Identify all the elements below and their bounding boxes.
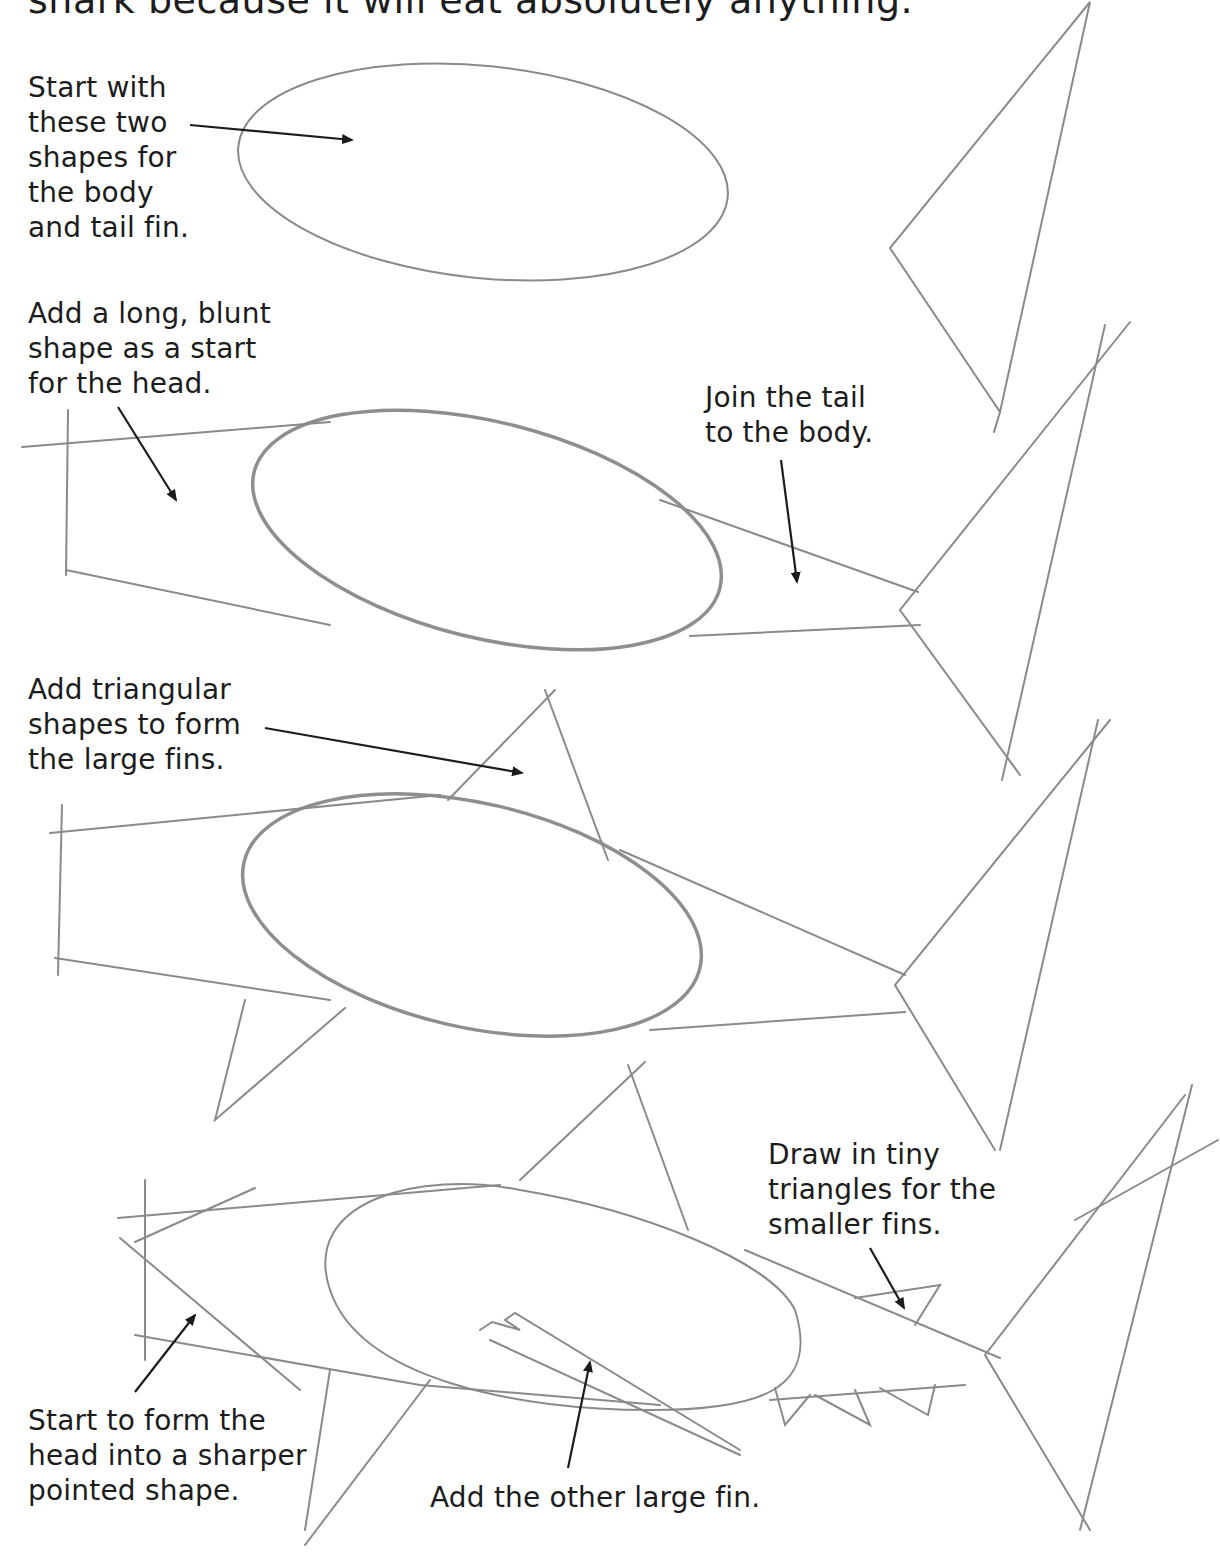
body-oval [219, 753, 725, 1077]
caudal-keel-line [1075, 1140, 1218, 1220]
step-caption: Start to form the head into a sharper po… [28, 1403, 307, 1508]
pectoral-fin [215, 1000, 345, 1120]
step-caption: Add triangular shapes to form the large … [28, 672, 241, 777]
arrow-icon [870, 1248, 904, 1308]
body-oval [325, 1184, 800, 1410]
pectoral-fin [305, 1370, 430, 1545]
body-oval [228, 367, 746, 693]
tail-fin-back [1080, 1085, 1192, 1530]
step1-drawing [190, 2, 1090, 432]
arrow-icon [118, 407, 176, 500]
arrow-icon [265, 728, 522, 773]
step-caption: Join the tail to the body. [705, 380, 873, 450]
arrow-icon [190, 125, 352, 140]
arrow-icon [781, 460, 797, 582]
step-caption: Draw in tiny triangles for the smaller f… [768, 1137, 996, 1242]
tail-fin-front [900, 322, 1130, 775]
step-caption: Start with these two shapes for the body… [28, 70, 189, 245]
small-anal-fins [775, 1385, 935, 1425]
tail-fin-front [895, 720, 1110, 1150]
body-oval [227, 41, 738, 303]
head-point-line [120, 1238, 300, 1390]
step-caption: Add a long, blunt shape as a start for t… [28, 296, 271, 401]
other-large-fin [480, 1313, 740, 1455]
tail-fin-back [1000, 720, 1098, 1150]
small-dorsal-fin [855, 1285, 940, 1325]
tail-join-bottom [690, 625, 920, 636]
tail-fin-front [985, 1095, 1185, 1530]
tail-fin-triangle [890, 2, 1090, 432]
tail-fin-back [1002, 325, 1105, 780]
dorsal-fin [520, 1062, 688, 1230]
step-caption: Add the other large fin. [430, 1480, 760, 1515]
